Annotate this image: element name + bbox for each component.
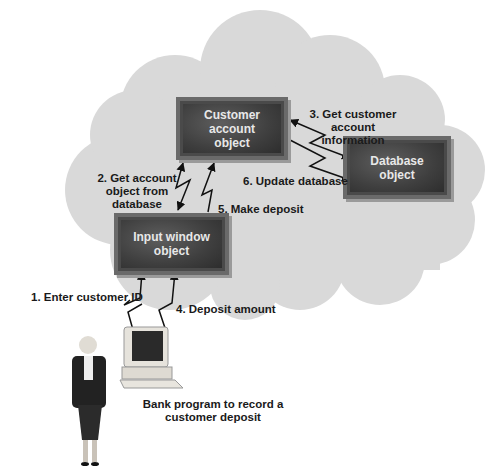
- step3-label: 3. Get customer account information: [288, 108, 418, 147]
- customer-account-object-box: Customer account object: [176, 97, 288, 160]
- computer-illustration: [120, 327, 183, 388]
- input-window-object-box: Input window object: [114, 213, 229, 275]
- input-window-label-line1: Input window: [133, 230, 210, 244]
- diagram-caption: Bank program to record a customer deposi…: [133, 398, 293, 424]
- customer-account-label-line2: object: [180, 136, 284, 150]
- step5-label: 5. Make deposit: [218, 203, 304, 216]
- person-illustration: [72, 336, 106, 466]
- step1-label: 1. Enter customer ID: [31, 291, 143, 304]
- step6-label: 6. Update database: [243, 175, 348, 188]
- database-label-line1: Database: [370, 154, 423, 168]
- step2-label: 2. Get account object from database: [92, 172, 182, 211]
- customer-account-label-line1: Customer account: [180, 108, 284, 136]
- step4-label: 4. Deposit amount: [176, 303, 276, 316]
- diagram-canvas: Customer account object Database object …: [0, 0, 494, 475]
- input-window-label-line2: object: [133, 244, 210, 258]
- database-label-line2: object: [370, 168, 423, 182]
